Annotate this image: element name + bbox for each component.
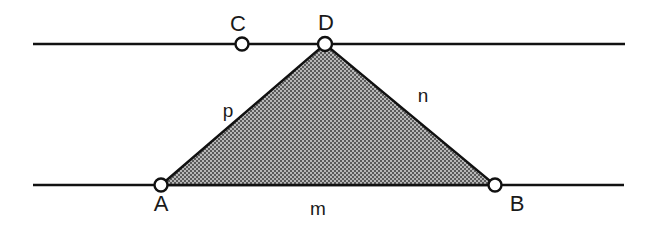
segment-label-n: n (418, 85, 429, 106)
point-label-D: D (318, 10, 334, 35)
point-marker-B[interactable] (489, 179, 502, 192)
point-label-C: C (230, 11, 246, 36)
triangle-ADB-fill (161, 44, 495, 185)
geometry-figure: C D A B p n m (0, 0, 660, 225)
point-marker-C[interactable] (236, 38, 249, 51)
point-marker-A[interactable] (155, 179, 168, 192)
point-label-A: A (154, 191, 169, 216)
point-marker-D[interactable] (318, 37, 332, 51)
geometry-diagram: C D A B p n m (0, 0, 660, 225)
point-label-B: B (510, 191, 525, 216)
segment-label-p: p (223, 100, 234, 121)
segment-label-m: m (310, 198, 326, 219)
